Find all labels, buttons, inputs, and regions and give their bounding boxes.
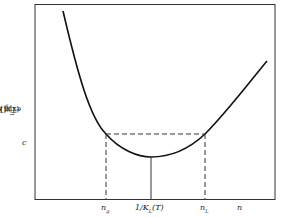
n-L-tick-label: nL — [200, 203, 208, 214]
plot-frame — [35, 5, 275, 200]
y-axis-label: exp{KL(T)n}1/n — [2, 60, 16, 160]
min-tick-label: 1/KL(T) — [135, 203, 164, 214]
x-axis-label: n — [237, 203, 242, 212]
chart-canvas — [0, 0, 283, 217]
c-tick-label: c — [22, 138, 26, 147]
n-g-tick-label: ng — [101, 203, 109, 214]
curve — [63, 11, 267, 157]
